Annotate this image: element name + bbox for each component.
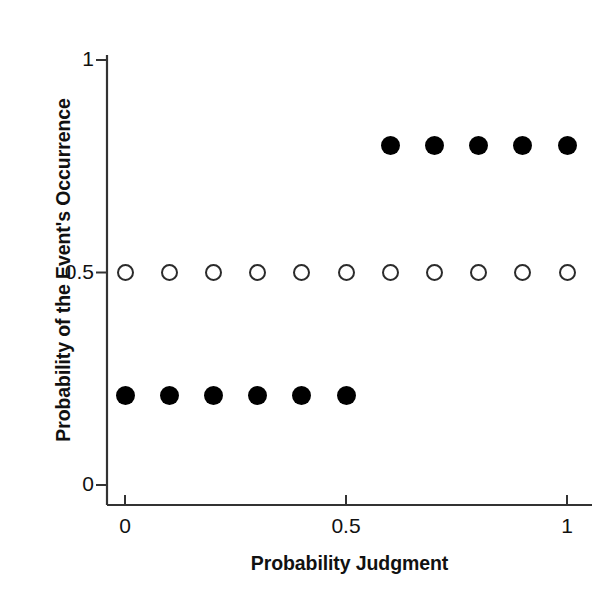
data-point-open-circles bbox=[426, 264, 443, 281]
data-point-open-circles bbox=[117, 264, 134, 281]
x-tick-label: 0 bbox=[90, 514, 160, 538]
plot-canvas bbox=[0, 0, 615, 597]
x-axis-title: Probability Judgment bbox=[107, 552, 592, 575]
y-tick-label: 0.5 bbox=[34, 260, 94, 284]
data-point-open-circles bbox=[382, 264, 399, 281]
data-point-filled-circles-low bbox=[160, 386, 179, 405]
data-point-filled-circles-low bbox=[116, 386, 135, 405]
x-tick-label: 1 bbox=[532, 514, 602, 538]
tick-marks bbox=[96, 60, 567, 505]
data-point-open-circles bbox=[559, 264, 576, 281]
data-point-open-circles bbox=[205, 264, 222, 281]
y-tick-label: 0 bbox=[34, 472, 94, 496]
y-tick-label: 1 bbox=[34, 47, 94, 71]
data-point-open-circles bbox=[470, 264, 487, 281]
data-point-filled-circles-high bbox=[513, 136, 532, 155]
data-point-filled-circles-high bbox=[425, 136, 444, 155]
data-point-open-circles bbox=[249, 264, 266, 281]
data-point-open-circles bbox=[161, 264, 178, 281]
data-point-filled-circles-high bbox=[469, 136, 488, 155]
data-point-open-circles bbox=[338, 264, 355, 281]
data-point-filled-circles-low bbox=[204, 386, 223, 405]
data-point-filled-circles-high bbox=[558, 136, 577, 155]
scatter-plot-figure: Probability of the Event's Occurrence Pr… bbox=[0, 0, 615, 597]
data-point-filled-circles-high bbox=[381, 136, 400, 155]
data-point-filled-circles-low bbox=[337, 386, 356, 405]
x-tick-label: 0.5 bbox=[311, 514, 381, 538]
